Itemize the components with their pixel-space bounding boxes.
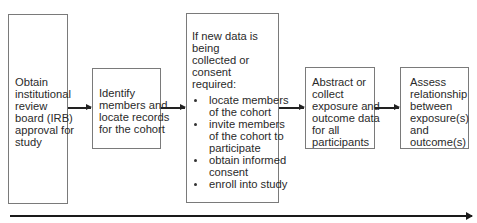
text-line: outcome data (312, 112, 371, 124)
text-line: and (410, 124, 465, 136)
text-line: institutional (15, 88, 64, 100)
arrow-right-icon (279, 107, 304, 109)
box-assess-relationship-text: Assess relationship between exposure(s) … (410, 76, 465, 148)
box-assess-relationship: Assess relationship between exposure(s) … (400, 67, 469, 149)
bullet-item: invite members of the cohort to particip… (192, 118, 275, 154)
text-line: review (15, 100, 64, 112)
bullet-item: obtain informed consent (192, 154, 275, 178)
text-line: exposure(s) (410, 112, 465, 124)
text-line: Abstract or (312, 76, 371, 88)
arrow-right-icon (375, 107, 399, 109)
text-line: participate (209, 142, 275, 154)
text-line: of the cohort (209, 106, 275, 118)
box-new-data-consent: If new data is being collected or consen… (186, 13, 279, 203)
timeline-arrow-icon (10, 215, 472, 217)
text-line: collect (312, 88, 371, 100)
text-line: approval for (15, 124, 64, 136)
text-line: consent (192, 66, 275, 78)
text-line: invite members (209, 118, 275, 130)
text-line: of the cohort to (209, 130, 275, 142)
text-line: If new data is (192, 30, 275, 42)
text-line: collected or (192, 54, 275, 66)
text-line: consent (209, 166, 275, 178)
bullet-icon (194, 123, 197, 126)
text-line: for all (312, 124, 371, 136)
box-irb-approval-text: Obtain institutional review board (IRB) … (15, 76, 64, 148)
bullet-item: enroll into study (192, 178, 275, 190)
text-line: between (410, 100, 465, 112)
text-line: for the cohort (99, 123, 157, 135)
box-abstract-collect: Abstract or collect exposure and outcome… (305, 67, 375, 149)
text-line: required: (192, 78, 275, 90)
arrow-right-icon (68, 107, 91, 109)
text-line: outcome(s) (410, 136, 465, 148)
text-line: board (IRB) (15, 112, 64, 124)
bullet-item: locate members of the cohort (192, 94, 275, 118)
text-line: Obtain (15, 76, 64, 88)
text-line: relationship (410, 88, 465, 100)
box-abstract-collect-text: Abstract or collect exposure and outcome… (312, 76, 371, 148)
box-identify-members-text: Identify members and locate records for … (99, 87, 157, 135)
text-line: being (192, 42, 275, 54)
bullet-list: locate members of the cohort invite memb… (192, 94, 275, 190)
text-line: participants (312, 136, 371, 148)
text-line: obtain informed (209, 154, 275, 166)
box-new-data-consent-text: If new data is being collected or consen… (192, 30, 275, 190)
bullet-icon (194, 183, 197, 186)
bullet-icon (194, 159, 197, 162)
arrow-right-icon (161, 107, 185, 109)
text-line: exposure and (312, 100, 371, 112)
box-irb-approval: Obtain institutional review board (IRB) … (8, 14, 68, 204)
text-line: members and (99, 99, 157, 111)
text-line: enroll into study (209, 178, 275, 190)
text-line: locate records (99, 111, 157, 123)
text-line: study (15, 136, 64, 148)
box-identify-members: Identify members and locate records for … (92, 68, 161, 149)
text-line: Assess (410, 76, 465, 88)
text-line: locate members (209, 94, 275, 106)
bullet-icon (194, 99, 197, 102)
text-line: Identify (99, 87, 157, 99)
